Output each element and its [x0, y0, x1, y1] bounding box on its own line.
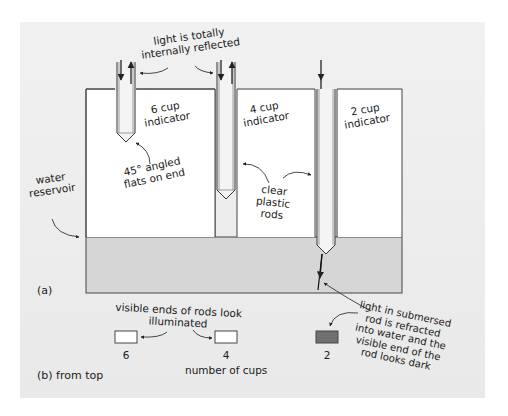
rod-2-cup	[317, 89, 335, 254]
clear-rods-label: clear plastic rods	[254, 182, 292, 221]
water-reservoir	[86, 237, 402, 293]
indicator-4-count: 4	[221, 349, 231, 361]
number-of-cups-label: number of cups	[185, 364, 267, 376]
rod-6-cup	[117, 62, 135, 142]
indicator-2-count: 2	[322, 349, 332, 361]
part-a-label: (a)	[37, 285, 52, 297]
part-b-label: (b) from top	[37, 370, 103, 382]
indicator-6-count: 6	[121, 349, 131, 361]
